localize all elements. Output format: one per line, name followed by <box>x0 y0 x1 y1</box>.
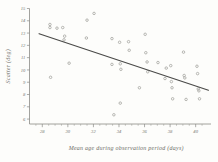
data-point <box>86 19 89 22</box>
data-point <box>85 37 88 40</box>
data-point <box>68 62 71 65</box>
data-point <box>111 37 114 40</box>
data-point <box>171 87 174 90</box>
data-point <box>128 49 131 52</box>
data-point <box>198 98 201 101</box>
data-point <box>169 64 172 67</box>
y-tick-label: 15 <box>21 6 26 11</box>
y-tick-label: 6 <box>23 117 26 122</box>
data-point <box>93 12 96 15</box>
data-point <box>118 41 121 44</box>
data-point <box>138 87 141 90</box>
x-tick-label: 34 <box>117 129 122 134</box>
scatter-plot-figure: 678910111213141528303234363840Mean age d… <box>0 0 218 162</box>
y-tick-label: 12 <box>21 43 26 48</box>
x-tick-label: 40 <box>193 129 198 134</box>
data-point <box>165 67 168 70</box>
y-tick-label: 10 <box>21 68 26 73</box>
data-point <box>164 77 167 80</box>
data-point <box>120 68 123 71</box>
data-point <box>56 27 59 30</box>
y-tick-label: 14 <box>21 18 26 23</box>
x-tick-label: 30 <box>66 129 71 134</box>
data-point <box>144 33 147 36</box>
data-point <box>49 76 52 79</box>
data-point <box>63 39 66 42</box>
y-tick-label: 9 <box>23 80 26 85</box>
data-point <box>184 77 187 80</box>
data-point <box>119 102 122 105</box>
data-point <box>182 51 185 54</box>
data-point <box>119 63 122 66</box>
x-tick-label: 28 <box>40 129 45 134</box>
data-point <box>63 35 66 38</box>
data-point <box>198 90 201 93</box>
data-point <box>61 26 64 29</box>
data-point <box>196 65 199 68</box>
plot-canvas: 678910111213141528303234363840Mean age d… <box>0 0 218 162</box>
data-point <box>185 98 188 101</box>
y-tick-label: 8 <box>23 92 26 97</box>
data-point <box>111 63 114 66</box>
y-tick-label: 7 <box>23 104 26 109</box>
data-point <box>49 26 52 29</box>
data-point <box>157 61 160 64</box>
data-point <box>127 40 130 43</box>
trend-line <box>39 34 208 91</box>
x-axis-title: Mean age during observation period (days… <box>68 145 184 152</box>
data-point <box>113 114 116 117</box>
data-point <box>171 98 174 101</box>
x-tick-label: 32 <box>91 129 96 134</box>
data-point <box>170 80 173 83</box>
y-axis-title: Scatter (deg) <box>5 49 12 83</box>
data-point <box>146 61 149 64</box>
y-tick-label: 11 <box>21 55 25 60</box>
data-point <box>49 23 52 26</box>
data-point <box>196 72 199 75</box>
y-tick-label: 13 <box>21 31 26 36</box>
x-tick-label: 36 <box>142 129 147 134</box>
data-point <box>145 51 148 54</box>
data-point <box>146 71 149 74</box>
x-tick-label: 38 <box>168 129 173 134</box>
